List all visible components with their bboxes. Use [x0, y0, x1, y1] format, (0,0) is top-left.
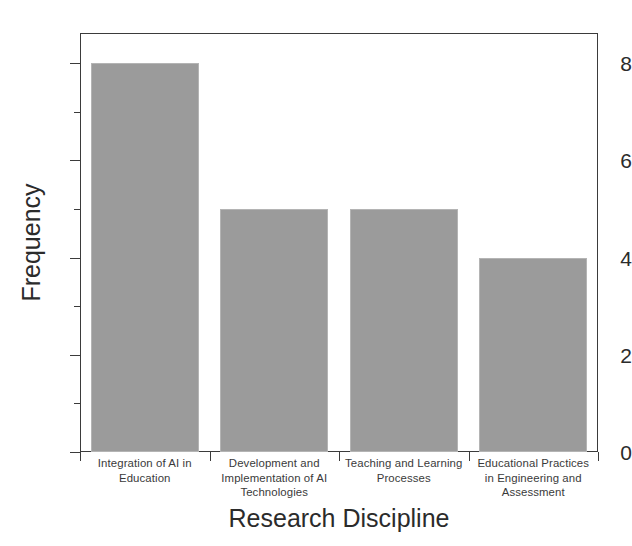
x-category-label: Development andImplementation of AITechn…: [210, 456, 340, 500]
x-category-label: Integration of AI inEducation: [80, 456, 210, 485]
bar: [91, 63, 199, 452]
y-axis-title: Frequency: [14, 33, 48, 452]
bar: [350, 209, 458, 452]
x-category-label: Teaching and LearningProcesses: [339, 456, 469, 485]
y-tick-major: [70, 355, 80, 356]
x-category-label-line: Assessment: [469, 485, 599, 500]
y-tick-label: 6: [570, 150, 632, 171]
y-tick-minor: [74, 403, 80, 404]
y-tick-label: 2: [570, 344, 632, 365]
bars-layer: [80, 33, 598, 452]
y-tick-major: [70, 160, 80, 161]
bar-chart-figure: 02468 Integration of AI inEducationDevel…: [0, 0, 632, 546]
y-tick-major: [70, 63, 80, 64]
y-tick-label: 4: [570, 247, 632, 268]
x-category-label-line: Technologies: [210, 485, 340, 500]
y-tick-major: [70, 452, 80, 453]
y-tick-minor: [74, 209, 80, 210]
y-tick-major: [70, 258, 80, 259]
x-category-label: Educational Practicesin Engineering andA…: [469, 456, 599, 500]
x-category-label-line: Development and: [210, 456, 340, 471]
x-axis-title: Research Discipline: [80, 503, 598, 533]
x-category-label-line: Processes: [339, 471, 469, 486]
bar: [220, 209, 328, 452]
x-category-label-line: Teaching and Learning: [339, 456, 469, 471]
x-category-label-line: Educational Practices: [469, 456, 599, 471]
y-tick-minor: [74, 112, 80, 113]
x-category-label-line: Education: [80, 471, 210, 486]
y-tick-label: 8: [570, 53, 632, 74]
x-category-label-line: Integration of AI in: [80, 456, 210, 471]
x-tick: [598, 452, 599, 461]
x-category-label-line: Implementation of AI: [210, 471, 340, 486]
y-tick-minor: [74, 306, 80, 307]
x-category-label-line: in Engineering and: [469, 471, 599, 486]
